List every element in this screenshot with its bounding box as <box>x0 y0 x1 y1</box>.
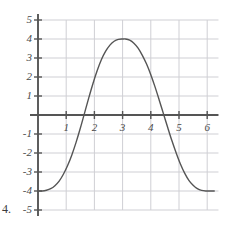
problem-number: 4. <box>2 203 11 215</box>
x-axis-label: 1 <box>57 122 75 133</box>
x-axis-label: 5 <box>170 122 188 133</box>
x-axis-label: 2 <box>85 122 103 133</box>
x-axis-label: 6 <box>198 122 216 133</box>
y-axis-label: -3 <box>6 166 32 177</box>
y-axis-label: -2 <box>6 147 32 158</box>
y-axis-label: 4 <box>6 33 32 44</box>
y-axis-label: 3 <box>6 52 32 63</box>
x-axis-label: 3 <box>114 122 132 133</box>
coordinate-plane <box>0 0 226 226</box>
y-axis-label: 1 <box>6 90 32 101</box>
y-axis-label: -4 <box>6 185 32 196</box>
y-axis-label: 5 <box>6 14 32 25</box>
graph-figure: -5-4-3-2-112345123456 4. <box>0 0 226 226</box>
y-axis-label: 2 <box>6 71 32 82</box>
y-axis-label: -1 <box>6 128 32 139</box>
x-axis-label: 4 <box>142 122 160 133</box>
